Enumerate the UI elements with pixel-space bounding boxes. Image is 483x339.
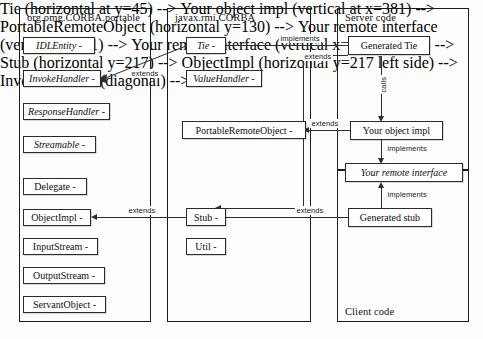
box-stub[interactable]: Stub - [186, 208, 226, 226]
box-label-streamable: Streamable - [30, 139, 89, 150]
box-label-valuehandler: ValueHandler - [189, 73, 258, 84]
box-streamable[interactable]: Streamable - [23, 136, 96, 153]
box-label-delegate: Delegate - [30, 181, 79, 192]
edge-arrowhead-objectimpl-extends [91, 214, 97, 220]
box-outputstream[interactable]: OutputStream - [23, 267, 105, 284]
box-your-object-impl[interactable]: Your object impl [350, 121, 443, 140]
box-tie[interactable]: Tie - [186, 37, 226, 54]
box-label-objectimpl: ObjectImpl - [27, 212, 86, 223]
box-label-generated-tie: Generated Tie [357, 40, 421, 51]
edge-label-calls: calls [379, 75, 388, 94]
box-util[interactable]: Util - [186, 238, 226, 255]
box-label-tie: Tie - [193, 40, 219, 51]
edge-label-generatedstub-extends: extends [295, 206, 325, 215]
edge-label-generatedstub-implements: implements [386, 190, 428, 199]
box-generated-stub[interactable]: Generated stub [348, 208, 432, 227]
edge-label-generated-tie-extends: extends [303, 52, 333, 61]
box-generated-tie[interactable]: Generated Tie [348, 36, 430, 55]
edge-label-tie-implements: implements [279, 34, 321, 43]
box-label-util: Util - [191, 241, 220, 252]
box-label-your-object-impl: Your object impl [359, 125, 434, 136]
edge-label-objimpl-implements: implements [386, 144, 428, 153]
box-label-stub: Stub - [190, 212, 222, 223]
box-label-invokehandler: InvokeHandler - [25, 73, 99, 84]
edge-arrowhead-generatedstub-implements [378, 182, 384, 188]
box-label-your-remote-interface: Your remote interface [357, 167, 451, 178]
box-your-remote-interface[interactable]: Your remote interface [345, 163, 463, 182]
box-label-inputstream: InputStream - [29, 241, 92, 252]
box-idlentity[interactable]: IDLEntity - [23, 37, 95, 54]
diagram-canvas: org.omg.CORBA.portable javax.rmi.CORBA S… [0, 0, 483, 339]
box-inputstream[interactable]: InputStream - [23, 238, 98, 255]
box-delegate[interactable]: Delegate - [23, 178, 87, 195]
edge-label-objimpl-extends-pro: extends [310, 119, 340, 128]
box-label-servantobject: ServantObject - [29, 299, 100, 310]
box-label-outputstream: OutputStream - [29, 270, 99, 281]
edge-label-tie-extends-invokehandler: extends [130, 69, 160, 78]
box-label-portableremoteobject: PortableRemoteObject - [192, 125, 297, 136]
box-portableremoteobject[interactable]: PortableRemoteObject - [182, 121, 306, 139]
box-valuehandler[interactable]: ValueHandler - [186, 70, 262, 87]
box-label-idlentity: IDLEntity - [32, 40, 86, 51]
edge-label-stub-extends-objectimpl: extends [127, 206, 157, 215]
box-label-responsehandler: ResponseHandler - [24, 106, 109, 117]
box-invokehandler[interactable]: InvokeHandler - [23, 70, 101, 87]
box-objectimpl[interactable]: ObjectImpl - [23, 209, 91, 226]
box-label-generated-stub: Generated stub [356, 212, 424, 223]
box-responsehandler[interactable]: ResponseHandler - [23, 103, 110, 120]
box-servantobject[interactable]: ServantObject - [23, 296, 106, 313]
